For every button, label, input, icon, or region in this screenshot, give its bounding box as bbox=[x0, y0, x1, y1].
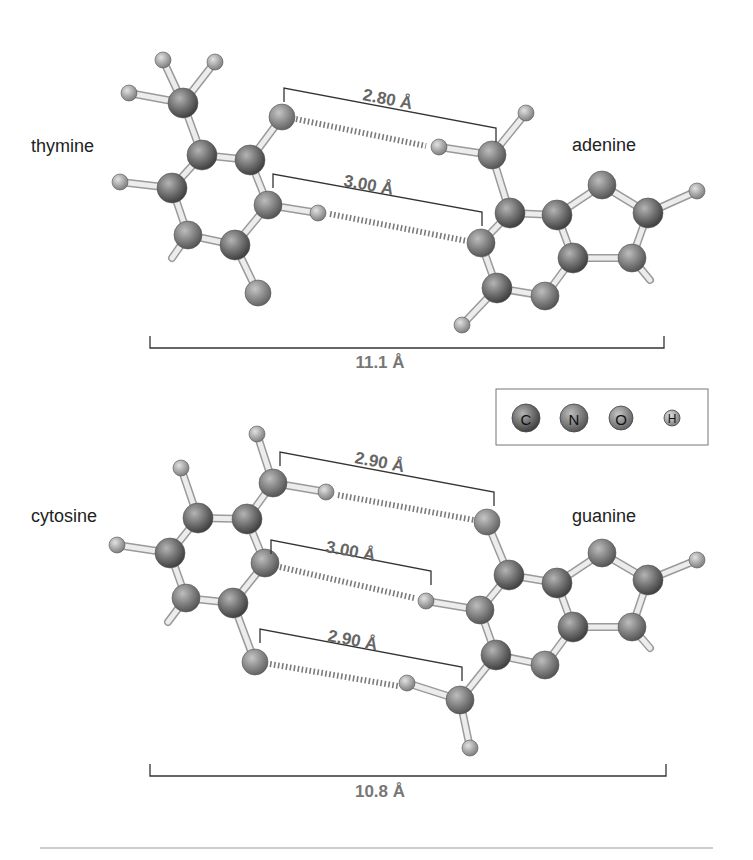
atom-h bbox=[418, 593, 434, 609]
atom-h bbox=[399, 675, 415, 691]
atom-n bbox=[467, 229, 495, 257]
atom-c bbox=[494, 560, 524, 590]
legend-nitrogen-label: N bbox=[569, 411, 580, 428]
atom-n bbox=[588, 539, 616, 567]
atom-n bbox=[618, 244, 646, 272]
atom-h bbox=[249, 426, 265, 442]
atom-h bbox=[207, 54, 223, 70]
atom-c bbox=[633, 565, 663, 595]
pair-width-label: 10.8 Å bbox=[355, 782, 405, 801]
atom-c bbox=[542, 568, 572, 598]
hydrogen-bond bbox=[270, 664, 398, 686]
atom-c bbox=[481, 640, 511, 670]
adenine-label: adenine bbox=[572, 135, 636, 155]
atom-h bbox=[121, 85, 137, 101]
atom-n bbox=[172, 584, 200, 612]
atom-n bbox=[588, 171, 616, 199]
atom-n bbox=[531, 282, 559, 310]
atom-c bbox=[495, 198, 525, 228]
hbond-distance-label: 3.00 Å bbox=[342, 171, 395, 199]
atom-h bbox=[173, 460, 189, 476]
atom-o bbox=[269, 104, 295, 130]
atom-h bbox=[431, 139, 447, 155]
covalent-bonds bbox=[117, 434, 697, 748]
atom-c bbox=[633, 198, 663, 228]
atom-c bbox=[558, 612, 588, 642]
legend-hydrogen-label: H bbox=[668, 412, 677, 426]
legend-carbon-label: C bbox=[521, 411, 532, 428]
atom-n bbox=[446, 686, 474, 714]
atom-h bbox=[155, 52, 171, 68]
element-legend: CNOH bbox=[496, 389, 708, 445]
atom-h bbox=[310, 205, 326, 221]
pair-width-bar: 10.8 Å bbox=[150, 764, 666, 801]
atom-c bbox=[482, 273, 512, 303]
width-bracket bbox=[150, 764, 666, 776]
hydrogen-bond bbox=[280, 567, 414, 598]
hydrogen-bond bbox=[330, 214, 467, 241]
atom-n bbox=[478, 141, 506, 169]
atom-o bbox=[242, 649, 268, 675]
atom-o bbox=[245, 280, 271, 306]
atom-c bbox=[157, 173, 187, 203]
atom-h bbox=[689, 183, 705, 199]
atom-c bbox=[187, 140, 217, 170]
hbond-distance-label: 2.90 Å bbox=[326, 626, 379, 654]
atom-c bbox=[235, 145, 265, 175]
cytosine-label: cytosine bbox=[31, 506, 97, 526]
atom-c bbox=[220, 230, 250, 260]
atom-n bbox=[174, 221, 202, 249]
width-bracket bbox=[150, 336, 664, 348]
hbond-distance-label: 2.80 Å bbox=[361, 85, 414, 113]
atom-h bbox=[318, 484, 334, 500]
atom-n bbox=[251, 549, 279, 577]
atom-c bbox=[168, 88, 198, 118]
atom-c bbox=[232, 504, 262, 534]
atom-n bbox=[618, 613, 646, 641]
atom-n bbox=[531, 651, 559, 679]
atom-h bbox=[109, 537, 125, 553]
atom-n bbox=[466, 596, 494, 624]
cytosine-guanine-pair: 2.90 Å3.00 Å2.90 Å 10.8 Å cytosine guani… bbox=[31, 426, 705, 801]
atom-h bbox=[112, 174, 128, 190]
thymine-adenine-pair: 2.80 Å3.00 Å 11.1 Å thymine adenine bbox=[31, 52, 705, 372]
hydrogen-bonds bbox=[270, 495, 474, 686]
hydrogen-bond bbox=[296, 119, 426, 146]
atom-c bbox=[183, 503, 213, 533]
atom-c bbox=[155, 538, 185, 568]
hbond-distance-label: 3.00 Å bbox=[324, 537, 377, 565]
atom-c bbox=[542, 200, 572, 230]
atom-c bbox=[558, 243, 588, 273]
pair-width-bar: 11.1 Å bbox=[150, 336, 664, 372]
atom-n bbox=[254, 191, 282, 219]
atom-o bbox=[474, 509, 500, 535]
pair-width-label: 11.1 Å bbox=[355, 353, 404, 372]
atom-h bbox=[518, 105, 534, 121]
distance-brackets: 2.80 Å3.00 Å bbox=[273, 85, 496, 226]
atom-h bbox=[454, 317, 470, 333]
atom-c bbox=[218, 588, 248, 618]
atom-h bbox=[689, 552, 705, 568]
atom-h bbox=[462, 740, 478, 756]
atom-n bbox=[259, 469, 287, 497]
legend-oxygen-label: O bbox=[615, 411, 627, 428]
thymine-label: thymine bbox=[31, 136, 94, 156]
base-pair-figure: 2.80 Å3.00 Å 11.1 Å thymine adenine 2.90… bbox=[0, 0, 753, 860]
guanine-label: guanine bbox=[572, 506, 636, 526]
hydrogen-bond bbox=[338, 495, 474, 520]
hbond-distance-label: 2.90 Å bbox=[353, 448, 406, 476]
